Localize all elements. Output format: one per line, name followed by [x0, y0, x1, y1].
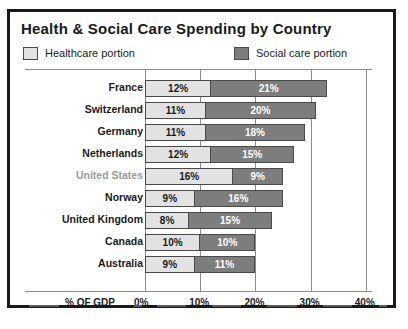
axis-baseline	[25, 291, 372, 292]
bar-row: United Kingdom8%15%	[24, 210, 382, 232]
legend-label-healthcare: Healthcare portion	[45, 47, 135, 59]
x-tick-label: 10%	[189, 297, 209, 308]
stacked-bar: 16%9%	[145, 168, 283, 185]
category-label: Canada	[105, 235, 143, 247]
category-label: Germany	[97, 125, 143, 137]
axis-dash	[323, 305, 352, 307]
stacked-bar: 11%20%	[145, 102, 316, 119]
stacked-bar: 10%10%	[145, 234, 255, 251]
stacked-bar: 9%11%	[145, 256, 255, 273]
bar-segment: 9%	[145, 190, 195, 207]
bar-segment: 20%	[206, 102, 316, 119]
legend-label-social: Social care portion	[256, 47, 347, 59]
category-label: Netherlands	[82, 147, 143, 159]
x-axis: % OF GDP 0%10%20%30%40%	[24, 297, 382, 313]
bar-row: Norway9%16%	[24, 188, 382, 210]
stacked-bar: 11%18%	[145, 124, 305, 141]
bar-segment: 11%	[145, 102, 206, 119]
category-label: Australia	[98, 257, 143, 269]
axis-dash	[29, 305, 59, 307]
x-tick-label: 30%	[300, 297, 320, 308]
bar-segment: 16%	[145, 168, 233, 185]
bar-row: Germany11%18%	[24, 122, 382, 144]
bar-segment: 10%	[200, 234, 255, 251]
category-label: United Kingdom	[62, 213, 143, 225]
bar-segment: 11%	[145, 124, 206, 141]
bar-segment: 9%	[145, 256, 195, 273]
category-label: Norway	[105, 191, 143, 203]
bar-row: Australia9%11%	[24, 254, 382, 276]
bar-row: France12%21%	[24, 78, 382, 100]
bar-segment: 21%	[211, 80, 327, 97]
x-axis-label: % OF GDP	[65, 297, 115, 308]
bar-segment: 10%	[145, 234, 200, 251]
bar-segment: 15%	[211, 146, 294, 163]
bar-row: United States16%9%	[24, 166, 382, 188]
axis-dash	[267, 305, 296, 307]
axis-dash	[379, 305, 387, 307]
category-label: Switzerland	[85, 103, 143, 115]
bar-segment: 15%	[189, 212, 272, 229]
bar-segment: 11%	[195, 256, 256, 273]
bar-segment: 12%	[145, 146, 211, 163]
bar-segment: 16%	[195, 190, 283, 207]
bar-segment: 12%	[145, 80, 211, 97]
category-label: France	[109, 81, 143, 93]
plot-area: France12%21%Switzerland11%20%Germany11%1…	[24, 69, 382, 292]
legend-swatch-healthcare	[23, 47, 38, 60]
legend-swatch-social	[234, 47, 249, 60]
stacked-bar: 9%16%	[145, 190, 283, 207]
axis-dash	[134, 305, 142, 307]
bar-row: Netherlands12%15%	[24, 144, 382, 166]
bar-segment: 9%	[233, 168, 283, 185]
chart-frame: Health & Social Care Spending by Country…	[7, 9, 396, 308]
bar-row: Switzerland11%20%	[24, 100, 382, 122]
axis-dash	[157, 305, 186, 307]
legend-item-healthcare: Healthcare portion	[23, 45, 135, 61]
bar-row: Canada10%10%	[24, 232, 382, 254]
stacked-bar: 12%21%	[145, 80, 327, 97]
stacked-bar: 8%15%	[145, 212, 272, 229]
legend-item-social: Social care portion	[234, 45, 347, 61]
plot-top-rule	[25, 69, 372, 70]
axis-dash	[212, 305, 241, 307]
stacked-bar: 12%15%	[145, 146, 294, 163]
page-title: Health & Social Care Spending by Country	[21, 20, 332, 37]
bar-segment: 18%	[206, 124, 305, 141]
x-tick-label: 20%	[244, 297, 264, 308]
x-tick-label: 40%	[355, 297, 375, 308]
bar-segment: 8%	[145, 212, 189, 229]
category-label: United States	[76, 169, 143, 181]
